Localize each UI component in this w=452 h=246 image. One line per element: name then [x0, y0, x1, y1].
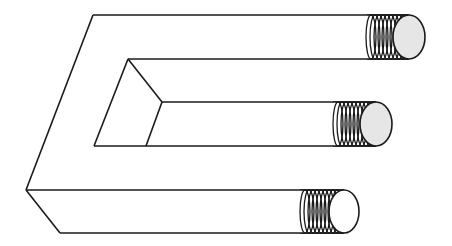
middle-prong-threaded-end — [333, 102, 392, 146]
bottom-prong-threaded-end — [300, 190, 359, 233]
bottom-cap-face — [329, 190, 359, 233]
outer-left-edge — [26, 15, 93, 190]
top-cap-face — [393, 15, 425, 59]
top-prong-threaded-end — [366, 15, 425, 59]
inner-corner-diagonal — [128, 59, 162, 102]
inner-left-edge — [94, 59, 128, 146]
middle-prong-slant — [146, 102, 162, 146]
impossible-trident-figure — [0, 0, 452, 246]
bottom-front-diagonal — [26, 190, 60, 233]
middle-cap-face — [360, 102, 392, 146]
